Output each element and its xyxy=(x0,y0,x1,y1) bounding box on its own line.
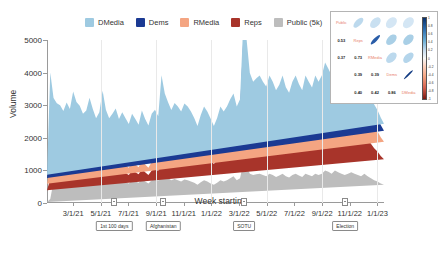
matrix-correlation-text: 0.73 xyxy=(350,49,367,66)
legend-swatch-icon xyxy=(180,18,189,27)
event-marker-icon[interactable] xyxy=(241,198,247,206)
matrix-correlation-text: 0.40 xyxy=(350,84,367,101)
legend-item-label: Reps xyxy=(244,18,262,27)
event-annotation[interactable]: Election xyxy=(332,221,358,231)
legend-item-label: RMedia xyxy=(193,18,219,27)
x-axis-tick-label: 1/1/23 xyxy=(367,209,388,218)
legend-item-dmedia[interactable]: DMedia xyxy=(85,18,124,27)
matrix-correlation-value: 0.53 xyxy=(333,31,350,48)
y-axis-tick-mark xyxy=(43,170,47,171)
colorbar-tick-label: 0.4 xyxy=(428,40,432,44)
legend-swatch-icon xyxy=(274,18,283,27)
matrix-correlation-ellipse xyxy=(350,14,367,31)
y-axis-tick-mark xyxy=(43,40,47,41)
colorbar-tick-label: 0.8 xyxy=(428,24,432,28)
correlation-matrix-inset: PublicRepsRMediaDemsDMedia0.530.370.730.… xyxy=(330,11,438,104)
event-marker-icon[interactable] xyxy=(342,198,348,206)
y-axis-tick-label: 2000 xyxy=(24,133,42,142)
matrix-diagonal-label-dmedia: DMedia xyxy=(400,84,417,101)
legend-swatch-icon xyxy=(136,18,145,27)
y-axis-tick-mark xyxy=(43,73,47,74)
matrix-diagonal-label-reps: Reps xyxy=(350,31,367,48)
colorbar-tick-label: 0.6 xyxy=(428,32,432,36)
x-axis-label: Week starting xyxy=(0,196,441,206)
colorbar-tick-label: 1 xyxy=(428,16,430,20)
colorbar-tick-label: 0 xyxy=(428,57,430,61)
y-axis-tick-label: 3000 xyxy=(24,101,42,110)
matrix-correlation-value: 0.37 xyxy=(333,49,350,66)
x-axis-tick-label: 9/1/22 xyxy=(312,209,333,218)
correlation-colorbar: 10.80.60.40.20-0.2-0.4-0.6-0.8-1 xyxy=(422,17,427,100)
matrix-variable-label: DMedia xyxy=(400,84,417,101)
matrix-correlation-ellipse xyxy=(400,31,417,48)
gridline xyxy=(101,40,102,203)
matrix-correlation-value: 0.86 xyxy=(383,84,400,101)
matrix-correlation-value: 0.73 xyxy=(350,49,367,66)
colorbar-tick-label: -0.8 xyxy=(428,89,434,93)
legend-item-public-5k[interactable]: Public (5k) xyxy=(274,18,322,27)
y-axis-tick-label: 1000 xyxy=(24,166,42,175)
matrix-correlation-value: 0.40 xyxy=(350,84,367,101)
gridline xyxy=(211,40,212,203)
gridline xyxy=(267,40,268,203)
matrix-correlation-ellipse xyxy=(367,31,384,48)
matrix-diagonal-label-rmedia: RMedia xyxy=(367,49,384,66)
event-marker-icon[interactable] xyxy=(160,198,166,206)
matrix-correlation-text: 0.53 xyxy=(333,31,350,48)
y-axis-tick-label: 5000 xyxy=(24,36,42,45)
event-marker-icon[interactable] xyxy=(111,198,117,206)
matrix-variable-label: Public xyxy=(333,14,350,31)
matrix-diagonal-label-dems: Dems xyxy=(383,66,400,83)
correlation-matrix-grid: PublicRepsRMediaDemsDMedia0.530.370.730.… xyxy=(333,14,417,103)
colorbar-tick-label: -1 xyxy=(428,97,431,101)
x-axis-tick-label: 9/1/21 xyxy=(146,209,167,218)
matrix-correlation-ellipse xyxy=(383,31,400,48)
chart-legend: DMediaDemsRMediaRepsPublic (5k) xyxy=(85,18,322,27)
x-axis-tick-label: 7/1/21 xyxy=(118,209,139,218)
gridline xyxy=(322,40,323,203)
gridline xyxy=(156,40,157,203)
matrix-correlation-ellipse xyxy=(367,14,384,31)
x-axis-tick-label: 7/1/22 xyxy=(284,209,305,218)
matrix-correlation-text: 0.39 xyxy=(350,66,367,83)
matrix-variable-label: Reps xyxy=(350,31,367,48)
y-axis-tick-mark xyxy=(43,138,47,139)
legend-item-rmedia[interactable]: RMedia xyxy=(180,18,219,27)
x-axis-tick-label: 3/1/21 xyxy=(63,209,84,218)
colorbar-tick-label: -0.2 xyxy=(428,65,434,69)
y-axis-tick-label: 4000 xyxy=(24,68,42,77)
matrix-correlation-text: 0.37 xyxy=(333,49,350,66)
matrix-correlation-text: 0.42 xyxy=(367,84,384,101)
legend-item-label: Dems xyxy=(149,18,169,27)
matrix-correlation-ellipse xyxy=(400,49,417,66)
matrix-correlation-ellipse xyxy=(400,14,417,31)
matrix-correlation-text: 0.86 xyxy=(383,84,400,101)
matrix-correlation-text: 0.39 xyxy=(367,66,384,83)
legend-item-dems[interactable]: Dems xyxy=(136,18,169,27)
matrix-correlation-value: 0.42 xyxy=(367,84,384,101)
colorbar-tick-label: -0.6 xyxy=(428,81,434,85)
legend-item-label: Public (5k) xyxy=(287,18,322,27)
event-annotation[interactable]: Afghanistan xyxy=(146,221,180,231)
x-axis-tick-label: 5/1/21 xyxy=(90,209,111,218)
event-annotation[interactable]: SOTU xyxy=(233,221,255,231)
legend-item-reps[interactable]: Reps xyxy=(231,18,262,27)
matrix-correlation-value: 0.39 xyxy=(367,66,384,83)
matrix-variable-label: RMedia xyxy=(367,49,384,66)
matrix-correlation-ellipse xyxy=(383,49,400,66)
y-axis-label: Volume xyxy=(8,90,18,118)
matrix-diagonal-label-public: Public xyxy=(333,14,350,31)
legend-swatch-icon xyxy=(231,18,240,27)
colorbar-tick-label: -0.4 xyxy=(428,73,434,77)
event-annotation[interactable]: 1st 100 days xyxy=(96,221,132,231)
legend-swatch-icon xyxy=(85,18,94,27)
matrix-variable-label: Dems xyxy=(383,66,400,83)
x-axis-tick-label: 11/1/22 xyxy=(338,209,362,218)
matrix-correlation-value: 0.39 xyxy=(350,66,367,83)
chart-root: DMediaDemsRMediaRepsPublic (5k) Volume 0… xyxy=(0,0,441,255)
legend-item-label: DMedia xyxy=(98,18,124,27)
colorbar-tick-label: 0.2 xyxy=(428,48,432,52)
x-axis-tick-label: 5/1/22 xyxy=(256,209,277,218)
x-axis-tick-label: 3/1/22 xyxy=(229,209,250,218)
matrix-correlation-ellipse xyxy=(400,66,417,83)
